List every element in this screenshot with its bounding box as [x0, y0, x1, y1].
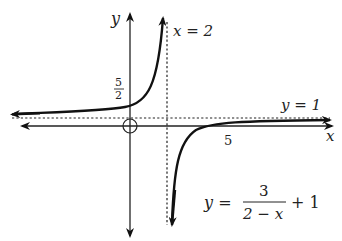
y-intercept-numerator: 5	[115, 76, 122, 89]
vertical-asymptote-label: x = 2	[173, 22, 213, 40]
equation-numerator: 3	[259, 182, 269, 200]
y-axis-label: y	[110, 9, 121, 28]
equation-denominator: 2 − x	[242, 205, 284, 223]
graph-canvas: y x x = 2 y = 1 5 2 5 y = 3 2 − x + 1	[0, 0, 342, 241]
x-intercept-label: 5	[224, 133, 232, 148]
horizontal-asymptote-label: y = 1	[280, 96, 321, 114]
equation-rhs: + 1	[291, 193, 320, 212]
y-intercept-denominator: 2	[115, 89, 122, 102]
curve-left-branch	[14, 18, 163, 114]
x-axis-label: x	[326, 127, 335, 145]
curve-left-arrow	[12, 113, 40, 114]
equation-lhs: y =	[203, 193, 232, 212]
